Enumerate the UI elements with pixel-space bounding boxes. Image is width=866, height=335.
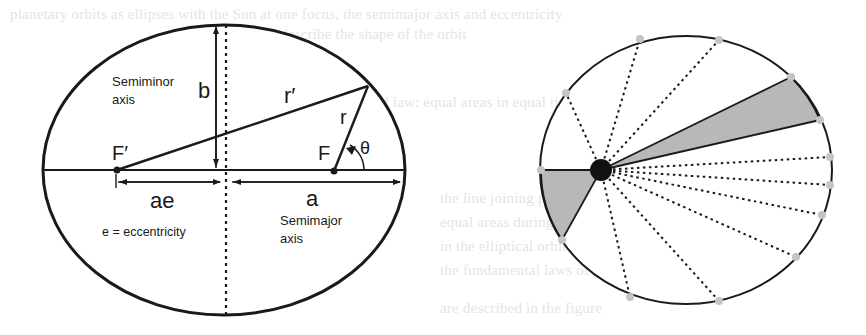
semiminor-label: Semiminor xyxy=(112,74,175,89)
orbit-point xyxy=(715,36,723,44)
orbit-point xyxy=(558,236,566,244)
focus-f-prime xyxy=(114,167,121,174)
orbit-point xyxy=(818,211,826,219)
semimajor-label-2: axis xyxy=(280,231,304,246)
sun-icon xyxy=(590,159,612,181)
orbit-point xyxy=(826,153,834,161)
ae-label: ae xyxy=(150,188,174,213)
orbit-point xyxy=(826,181,834,189)
r-prime-label: r′ xyxy=(284,83,295,108)
orbit-point xyxy=(787,73,795,81)
orbit-point xyxy=(636,35,644,43)
orbit-point xyxy=(537,166,545,174)
focus-f xyxy=(331,168,338,175)
equal-areas-diagram xyxy=(537,35,834,305)
diagram-canvas: Semiminor axis b r′ r θ F′ F ae a e = ec… xyxy=(0,0,866,335)
orbit-point xyxy=(715,297,723,305)
orbit-point xyxy=(816,116,824,124)
semiminor-label-2: axis xyxy=(112,92,136,107)
eccentricity-label: e = eccentricity xyxy=(102,225,186,239)
a-label: a xyxy=(306,186,319,211)
orbit-point xyxy=(626,293,634,301)
f-prime-label: F′ xyxy=(112,142,128,164)
theta-label: θ xyxy=(360,138,370,158)
orbit-point xyxy=(792,253,800,261)
ellipse-diagram: Semiminor axis b r′ r θ F′ F ae a e = ec… xyxy=(43,25,405,315)
orbit-point xyxy=(562,89,570,97)
r-label: r xyxy=(340,106,347,128)
semimajor-label: Semimajor xyxy=(280,213,343,228)
f-label: F xyxy=(318,142,330,164)
b-label: b xyxy=(198,78,210,103)
